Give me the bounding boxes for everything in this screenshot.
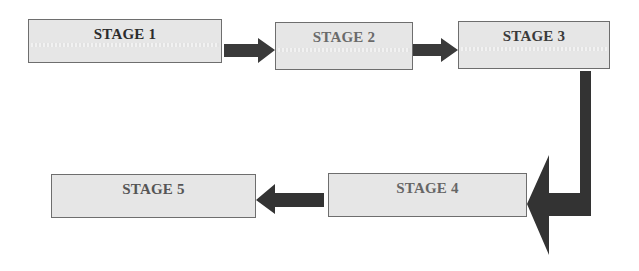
stage-5-box: STAGE 5 <box>51 174 256 218</box>
texture-band <box>461 47 607 51</box>
arrow-stage3-to-stage4 <box>527 71 591 255</box>
stage-4-label: STAGE 4 <box>396 180 458 196</box>
arrow-stage2-to-stage3 <box>413 38 458 62</box>
stage-3-box: STAGE 3 <box>458 21 610 69</box>
stage-1-box: STAGE 1 <box>28 19 222 63</box>
stage-5-label: STAGE 5 <box>122 181 184 197</box>
arrow-stage4-to-stage5 <box>256 184 324 214</box>
stage-2-box: STAGE 2 <box>275 22 413 70</box>
stage-3-label: STAGE 3 <box>503 28 565 44</box>
texture-band <box>278 48 410 52</box>
stage-2-label: STAGE 2 <box>313 29 375 45</box>
stage-1-label: STAGE 1 <box>94 26 156 42</box>
arrow-stage1-to-stage2 <box>224 38 275 63</box>
texture-band <box>31 43 219 47</box>
stage-4-box: STAGE 4 <box>328 173 527 217</box>
